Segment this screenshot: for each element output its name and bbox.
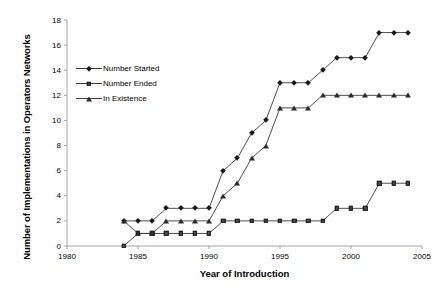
legend-item-number-started: Number Started — [76, 61, 159, 76]
data-point-marker — [349, 206, 353, 210]
data-point-marker — [234, 181, 240, 186]
data-point-marker — [235, 219, 239, 223]
plot-area — [0, 0, 443, 294]
data-point-marker — [263, 143, 269, 148]
data-point-marker — [121, 218, 127, 223]
data-point-marker — [291, 105, 297, 110]
square-icon — [76, 78, 102, 89]
data-point-marker — [149, 231, 155, 236]
data-point-marker — [363, 206, 367, 210]
legend-label-number-started: Number Started — [102, 64, 159, 73]
data-point-marker — [277, 105, 283, 110]
data-point-marker — [391, 93, 397, 98]
data-point-marker — [334, 93, 340, 98]
triangle-icon — [76, 93, 102, 104]
diamond-icon — [76, 63, 102, 74]
data-point-marker — [122, 244, 126, 248]
data-point-marker — [305, 105, 311, 110]
legend-label-number-ended: Number Ended — [102, 79, 157, 88]
data-point-marker — [391, 181, 395, 185]
data-point-marker — [220, 193, 226, 198]
data-point-marker — [376, 93, 382, 98]
data-point-marker — [320, 219, 324, 223]
data-point-marker — [249, 156, 255, 161]
chart-screenshot: Number of Implementations in Operators N… — [0, 0, 443, 294]
data-point-marker — [178, 231, 182, 235]
data-point-marker — [264, 219, 268, 223]
data-point-marker — [163, 218, 169, 223]
data-point-marker — [178, 218, 184, 223]
legend-item-in-existence: In Existence — [76, 91, 159, 106]
data-point-marker — [306, 219, 310, 223]
data-point-marker — [164, 231, 168, 235]
data-point-marker — [406, 181, 410, 185]
line-chart: Number of Implementations in Operators N… — [0, 0, 443, 294]
data-point-marker — [405, 93, 411, 98]
data-point-marker — [207, 231, 211, 235]
data-point-marker — [221, 219, 225, 223]
chart-legend: Number Started Number Ended In Existence — [76, 61, 159, 106]
data-point-marker — [192, 218, 198, 223]
data-point-marker — [292, 219, 296, 223]
data-point-marker — [377, 181, 381, 185]
data-point-marker — [362, 93, 368, 98]
data-point-marker — [320, 93, 326, 98]
data-point-marker — [206, 218, 212, 223]
data-point-marker — [193, 231, 197, 235]
legend-label-in-existence: In Existence — [102, 94, 147, 103]
data-point-marker — [335, 206, 339, 210]
data-point-marker — [135, 231, 141, 236]
data-point-marker — [348, 93, 354, 98]
legend-item-number-ended: Number Ended — [76, 76, 159, 91]
data-point-marker — [249, 219, 253, 223]
data-point-marker — [278, 219, 282, 223]
